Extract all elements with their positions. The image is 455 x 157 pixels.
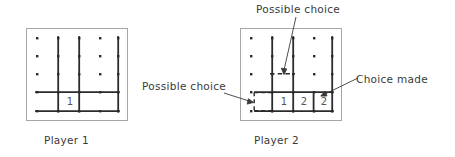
- annotation-choice-made: Choice made: [356, 73, 428, 85]
- annotation-possible-choice-left: Possible choice: [142, 80, 226, 92]
- player2-cell-number-1: 1: [277, 96, 291, 107]
- player2-cell-number-2: 2: [297, 96, 311, 107]
- figure-root: Possible choice Possible choice Choice m…: [0, 0, 455, 157]
- player1-frame: [27, 29, 128, 121]
- annotation-arrows: [224, 17, 358, 104]
- player1-dot-grid: [36, 37, 119, 112]
- player1-panel: [27, 29, 128, 121]
- player1-drawn-edges: [36, 37, 119, 112]
- player2-cell-number-3: 2: [317, 96, 331, 107]
- arrow-choice-made: [321, 78, 358, 96]
- arrow-possible-choice-left: [224, 93, 254, 104]
- caption-player1: Player 1: [44, 134, 89, 146]
- player1-cell-number-1: 1: [63, 96, 77, 107]
- annotation-possible-choice-top: Possible choice: [256, 3, 340, 15]
- caption-player2: Player 2: [254, 134, 299, 146]
- player2-dashed-possible-box[interactable]: [254, 92, 271, 111]
